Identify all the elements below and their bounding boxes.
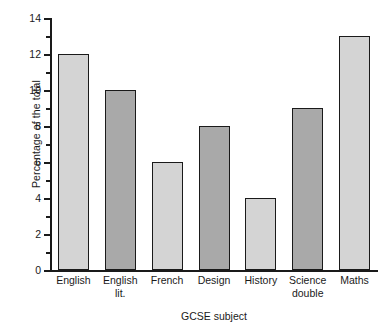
bars-layer: [50, 18, 378, 270]
bar: [339, 36, 370, 270]
x-tick-label: Maths: [331, 274, 378, 287]
bar: [58, 54, 89, 270]
y-tick-major: [44, 270, 50, 272]
bar: [292, 108, 323, 270]
x-tick-label: History: [237, 274, 284, 287]
x-tick-label: Englishlit.: [97, 274, 144, 299]
bar-chart: Percentage of the total 02468101214 Engl…: [0, 0, 383, 330]
y-tick-label: 6: [35, 156, 41, 168]
x-tick-label: English: [50, 274, 97, 287]
x-tick-label-line: French: [144, 274, 191, 287]
y-tick-label: 4: [35, 192, 41, 204]
y-tick-label: 8: [35, 120, 41, 132]
x-tick-label-line: Maths: [331, 274, 378, 287]
x-tick-label-line: lit.: [97, 287, 144, 300]
y-tick-label: 12: [29, 48, 41, 60]
x-tick-label-line: double: [284, 287, 331, 300]
bar: [105, 90, 136, 270]
x-tick-label: Design: [191, 274, 238, 287]
x-tick-label-line: Design: [191, 274, 238, 287]
x-axis-line: [50, 270, 378, 272]
bar: [199, 126, 230, 270]
x-axis-category-labels: EnglishEnglishlit.FrenchDesignHistorySci…: [50, 274, 378, 308]
x-tick-label-line: Science: [284, 274, 331, 287]
x-tick-label-line: English: [50, 274, 97, 287]
x-axis-title: GCSE subject: [50, 310, 378, 322]
y-tick-label: 0: [35, 264, 41, 276]
y-tick-label: 14: [29, 12, 41, 24]
y-tick-label: 10: [29, 84, 41, 96]
y-tick-label: 2: [35, 228, 41, 240]
x-tick-label-line: History: [237, 274, 284, 287]
x-tick-label-line: English: [97, 274, 144, 287]
x-tick-label: Sciencedouble: [284, 274, 331, 299]
plot-area: 02468101214: [50, 18, 378, 270]
bar: [245, 198, 276, 270]
bar: [152, 162, 183, 270]
x-tick-label: French: [144, 274, 191, 287]
